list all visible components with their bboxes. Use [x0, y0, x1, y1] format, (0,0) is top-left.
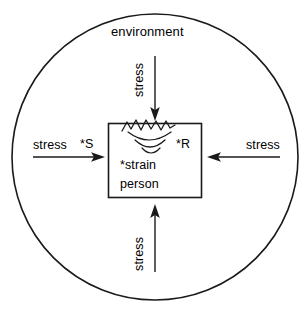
stimulus-annotation-label: *S — [80, 138, 93, 151]
ripple-arc-outer-icon — [128, 132, 171, 140]
strain-label: *strain — [120, 159, 156, 172]
ripple-arc-middle-icon — [135, 140, 165, 147]
stress-left-label: stress — [33, 139, 67, 152]
environment-label: environment — [111, 25, 184, 38]
zigzag-icon — [122, 120, 175, 131]
person-label: person — [120, 178, 159, 191]
stress-bottom-label: stress — [133, 237, 146, 271]
diagram-canvas: environment stress stress stress stress … — [0, 0, 308, 315]
ripple-arc-inner-icon — [142, 148, 160, 153]
stress-right-label: stress — [246, 139, 280, 152]
response-annotation-label: *R — [176, 138, 190, 151]
stress-top-label: stress — [133, 63, 146, 97]
